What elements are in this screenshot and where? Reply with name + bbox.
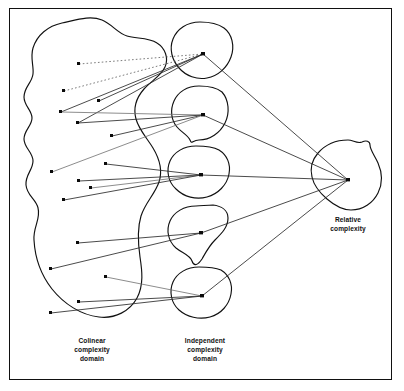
edge-c10-i3 [91,175,201,188]
colinear-node-dot [50,170,53,173]
independent-blob-1 [171,22,233,79]
colinear-node-dot [104,162,107,165]
edge-i2-r1 [203,115,348,180]
colinear-node-dot [97,99,100,102]
colinear-domain-label: Colinear complexity domain [46,336,138,364]
edge-c14-i5 [106,277,202,296]
edge-c12-i4 [78,233,201,243]
colinear-node-dot [104,275,107,278]
colinear-node-dot [76,241,79,244]
independent-node-dot [201,113,205,116]
relative-complexity-label: Relative complexity [305,215,391,233]
relative-complexity-blob [311,140,381,210]
colinear-node-dot [62,89,65,92]
colinear-node-dot [110,134,113,137]
independent-blob-2 [172,86,229,142]
colinear-node-dot [77,300,80,303]
edge-c13-i4 [51,233,201,269]
figure-root: Colinear complexity domain Independent c… [0,0,404,391]
colinear-node-dot [76,121,79,124]
independent-domain-label: Independent complexity domain [159,336,251,364]
independent-node-dot [199,231,203,234]
edge-c15-i5 [79,296,202,302]
complexity-diagram-canvas [0,0,404,391]
edge-i5-r1 [202,180,348,296]
independent-node-dot [199,173,203,176]
colinear-node-dot [59,110,62,113]
colinear-node-dot [77,179,80,182]
independent-blob-5 [171,267,232,318]
colinear-node-dot [77,62,80,65]
independent-node-dot [200,294,204,297]
relative-complexity-node-dot [346,178,350,181]
colinear-node-dot [62,198,65,201]
edge-c4-i2 [61,112,203,115]
edge-i1-r1 [203,54,348,180]
colinear-node-dot [49,311,52,314]
colinear-node-dot [49,267,52,270]
edge-c7-i2 [52,115,203,172]
colinear-node-dot [89,186,92,189]
edge-c8-i3 [106,164,201,175]
independent-node-dot [201,52,205,55]
edge-c4-i1 [61,54,203,112]
edge-i3-r1 [201,175,348,180]
